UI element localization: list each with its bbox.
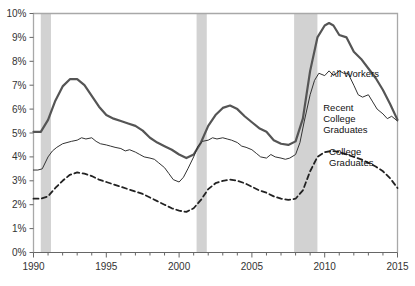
x-axis-tick-label: 1990: [22, 261, 45, 272]
y-axis-tick-label: 7%: [12, 80, 27, 91]
y-axis-tick-label: 3%: [12, 175, 27, 186]
series-label-college-graduates-1: College: [329, 146, 361, 157]
series-label-recent-college-graduates-2: College: [323, 113, 355, 124]
y-axis-tick-label: 6%: [12, 104, 27, 115]
series-label-recent-college-graduates-3: Graduates: [323, 124, 368, 135]
x-axis-tick-label: 2005: [241, 261, 264, 272]
y-axis-tick-label: 1%: [12, 223, 27, 234]
y-axis-tick-label: 0%: [12, 247, 27, 258]
chart-canvas: 0%1%2%3%4%5%6%7%8%9%10% 1990199520002005…: [0, 0, 415, 286]
y-axis-ticks: 0%1%2%3%4%5%6%7%8%9%10%: [6, 8, 33, 258]
x-axis-tick-label: 2010: [314, 261, 337, 272]
recession-bands: [41, 14, 318, 253]
series-line-all-workers: [34, 23, 398, 158]
x-axis-tick-label: 2000: [168, 261, 191, 272]
y-axis-tick-label: 2%: [12, 199, 27, 210]
recession-band: [41, 14, 51, 253]
x-axis-tick-label: 1995: [95, 261, 118, 272]
unemployment-rate-chart: 0%1%2%3%4%5%6%7%8%9%10% 1990199520002005…: [0, 0, 415, 286]
series-label-recent-college-graduates-1: Recent: [323, 102, 353, 113]
y-axis-tick-label: 5%: [12, 128, 27, 139]
series-label-college-graduates-2: Graduates: [329, 157, 374, 168]
x-axis-ticks: 199019952000200520102015: [22, 253, 409, 272]
series-label-all-workers: All Workers: [331, 68, 380, 79]
y-axis-tick-label: 4%: [12, 151, 27, 162]
y-axis-tick-label: 8%: [12, 56, 27, 67]
x-axis-tick-label: 2015: [386, 261, 409, 272]
y-axis-tick-label: 9%: [12, 32, 27, 43]
y-axis-tick-label: 10%: [6, 8, 26, 19]
